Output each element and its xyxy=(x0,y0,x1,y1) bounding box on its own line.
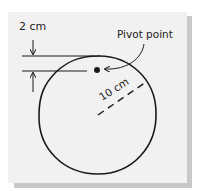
pivot-label: Pivot point xyxy=(117,28,173,40)
gap-label: 2 cm xyxy=(19,20,46,33)
pivot-diagram: 2 cm Pivot point 10 cm xyxy=(0,0,201,196)
circle-outline xyxy=(39,56,156,174)
radius-label: 10 cm xyxy=(97,75,131,103)
pivot-dot xyxy=(94,67,100,73)
